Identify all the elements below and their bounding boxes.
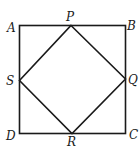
label-p: P (65, 10, 75, 24)
label-b: B (126, 19, 136, 33)
label-s: S (6, 74, 14, 88)
label-a: A (6, 21, 16, 35)
label-r: R (66, 135, 76, 149)
label-c: C (129, 128, 138, 142)
inner-square-pqrs (20, 26, 126, 134)
geometry-diagram: A B C D P Q R S (0, 0, 140, 155)
label-q: Q (128, 73, 138, 87)
outer-square-abcd (20, 26, 126, 134)
label-d: D (5, 129, 16, 143)
